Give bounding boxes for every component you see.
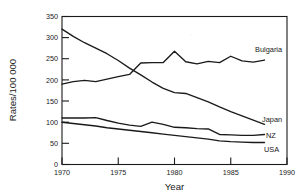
x-tick-1985: 1985 <box>223 168 239 177</box>
y-axis-tick-labels: 0 50 100 150 200 250 300 350 <box>46 12 58 169</box>
series-line-bulgaria <box>62 51 265 84</box>
x-tick-1970: 1970 <box>54 168 70 177</box>
y-tick-350: 350 <box>46 12 58 21</box>
data-series-group <box>62 29 265 142</box>
y-tick-250: 250 <box>46 54 58 63</box>
chart-figure: 0 50 100 150 200 250 300 350 1970 1975 1… <box>0 0 308 195</box>
series-line-usa <box>62 122 265 142</box>
series-line-japan <box>62 29 265 124</box>
x-axis-title: Year <box>165 181 185 192</box>
series-label-usa: USA <box>264 145 279 154</box>
series-label-bulgaria: Bulgaria <box>255 45 283 54</box>
y-tick-50: 50 <box>50 139 58 148</box>
x-tick-1990: 1990 <box>279 168 295 177</box>
series-label-nz: NZ <box>266 131 276 140</box>
y-axis-ticks <box>62 17 69 165</box>
series-line-nz <box>62 118 265 136</box>
y-tick-300: 300 <box>46 33 58 42</box>
x-tick-1980: 1980 <box>167 168 183 177</box>
y-axis-title: Rates/100 000 <box>7 59 18 121</box>
x-tick-1975: 1975 <box>110 168 126 177</box>
y-tick-150: 150 <box>46 97 58 106</box>
x-axis-ticks <box>62 158 287 165</box>
series-label-japan: Japan <box>262 115 282 124</box>
x-axis-tick-labels: 1970 1975 1980 1985 1990 <box>54 168 295 177</box>
y-tick-100: 100 <box>46 118 58 127</box>
line-chart: 0 50 100 150 200 250 300 350 1970 1975 1… <box>0 0 308 195</box>
y-tick-200: 200 <box>46 76 58 85</box>
